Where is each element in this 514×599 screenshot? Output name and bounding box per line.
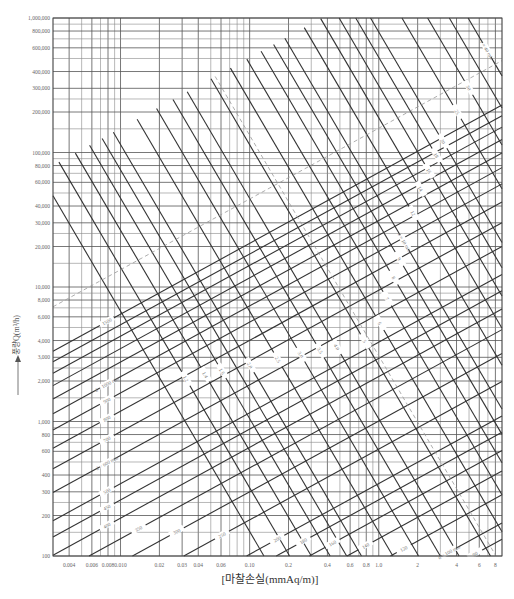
velocity-line xyxy=(137,119,393,556)
x-tick-label: 0.8 xyxy=(363,562,370,568)
diameter-line xyxy=(247,416,502,556)
y-tick-label: 2,000 xyxy=(38,378,51,384)
x-tick-label: 1.0 xyxy=(375,562,382,568)
friction-loss-chart: 1500d = 1000 mm900800700d = 600 mm500450… xyxy=(0,0,514,599)
velocity-line xyxy=(90,145,331,556)
y-tick-label: 6,000 xyxy=(38,314,51,320)
y-tick-label: 1,000,000 xyxy=(28,15,50,21)
velocity-line xyxy=(371,18,502,242)
velocity-line xyxy=(53,196,264,556)
y-tick-label: 800 xyxy=(42,432,51,438)
x-axis-label: [마찰손실(mmAq/m)] xyxy=(222,573,319,586)
y-tick-label: 400 xyxy=(42,472,51,478)
y-axis-title: 풍량Q(m³/h) xyxy=(11,315,21,355)
x-tick-label: 0.008 xyxy=(102,562,115,568)
y-tick-label: 300 xyxy=(42,489,51,495)
y-tick-label: 20,000 xyxy=(35,244,50,250)
diameter-line-label: d = 600 mm xyxy=(95,455,119,471)
y-tick-label: 80,000 xyxy=(35,163,50,169)
y-tick-label: 3,000 xyxy=(38,354,51,360)
y-tick-label: 1,000 xyxy=(38,419,51,425)
x-tick-label: 4 xyxy=(455,562,458,568)
x-tick-label: 0.006 xyxy=(86,562,99,568)
y-tick-label: 400,000 xyxy=(32,69,50,75)
diameter-line xyxy=(184,382,502,556)
velocity-line xyxy=(339,18,502,296)
x-tick-label: 0.10 xyxy=(245,562,255,568)
y-tick-label: 60,000 xyxy=(35,179,50,185)
velocity-line xyxy=(59,162,290,556)
y-tick-label: 200,000 xyxy=(32,109,50,115)
y-tick-label: 100 xyxy=(42,553,51,559)
x-tick-label: 6 xyxy=(478,562,481,568)
y-tick-label: 800,000 xyxy=(32,28,50,34)
y-tick-label: 4,000 xyxy=(38,338,51,344)
y-tick-label: 300,000 xyxy=(32,85,50,91)
y-tick-label: 600 xyxy=(42,448,51,454)
x-tick-label: 0.2 xyxy=(285,562,292,568)
diameter-line-label: d = 1000 mm xyxy=(94,376,120,393)
velocity-line xyxy=(356,18,502,268)
y-tick-label: 100,000 xyxy=(32,150,50,156)
velocity-line xyxy=(261,51,502,462)
x-tick-label: 0.010 xyxy=(114,562,127,568)
y-tick-label: 600,000 xyxy=(32,45,50,51)
x-tick-label: 0.04 xyxy=(193,562,203,568)
velocity-line xyxy=(102,138,347,556)
y-axis-label: 풍량Q(m³/h) xyxy=(11,315,21,355)
x-tick-label: 0.02 xyxy=(155,562,165,568)
y-tick-label: 10,000 xyxy=(35,284,50,290)
y-tick-label: 8,000 xyxy=(38,297,51,303)
grid xyxy=(53,18,502,556)
dashed-reference-line xyxy=(215,76,496,556)
up-arrow-icon xyxy=(15,355,21,395)
y-tick-label: 40,000 xyxy=(35,203,50,209)
x-tick-label: 0.4 xyxy=(324,562,331,568)
x-tick-label: 0.004 xyxy=(63,562,76,568)
x-tick-label: 0.03 xyxy=(177,562,187,568)
y-tick-label: 200 xyxy=(42,513,51,519)
y-tick-labels: 1002003004006008001,0002,0003,0004,0006,… xyxy=(28,15,50,559)
velocity-line xyxy=(274,44,502,434)
x-tick-label: 0.06 xyxy=(216,562,226,568)
y-tick-label: 30,000 xyxy=(35,220,50,226)
velocity-line xyxy=(157,109,419,556)
x-tick-label: 8 xyxy=(494,562,497,568)
x-tick-label: 2 xyxy=(416,562,419,568)
x-tick-label: 0.6 xyxy=(347,562,354,568)
x-tick-labels: 0.0040.0060.0080.0100.020.030.040.060.10… xyxy=(63,562,497,568)
